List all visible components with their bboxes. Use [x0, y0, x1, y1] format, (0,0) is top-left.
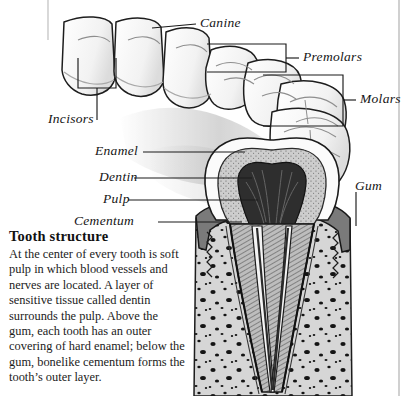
label-incisors: Incisors [48, 111, 94, 127]
label-enamel: Enamel [95, 143, 138, 159]
caption-heading: Tooth structure [9, 228, 185, 245]
label-gum: Gum [355, 178, 382, 194]
caption-block: Tooth structure At the center of every t… [9, 228, 185, 386]
label-cementum: Cementum [74, 213, 134, 229]
caption-body: At the center of every tooth is soft pul… [9, 247, 185, 386]
label-canine: Canine [200, 15, 241, 31]
label-pulp: Pulp [103, 191, 130, 207]
label-premolars: Premolars [303, 49, 362, 65]
label-dentin: Dentin [99, 169, 138, 185]
tooth-structure-figure: Canine Premolars Molars Incisors Enamel … [0, 0, 406, 396]
tooth-cross-section [194, 138, 352, 396]
label-molars: Molars [360, 91, 401, 107]
